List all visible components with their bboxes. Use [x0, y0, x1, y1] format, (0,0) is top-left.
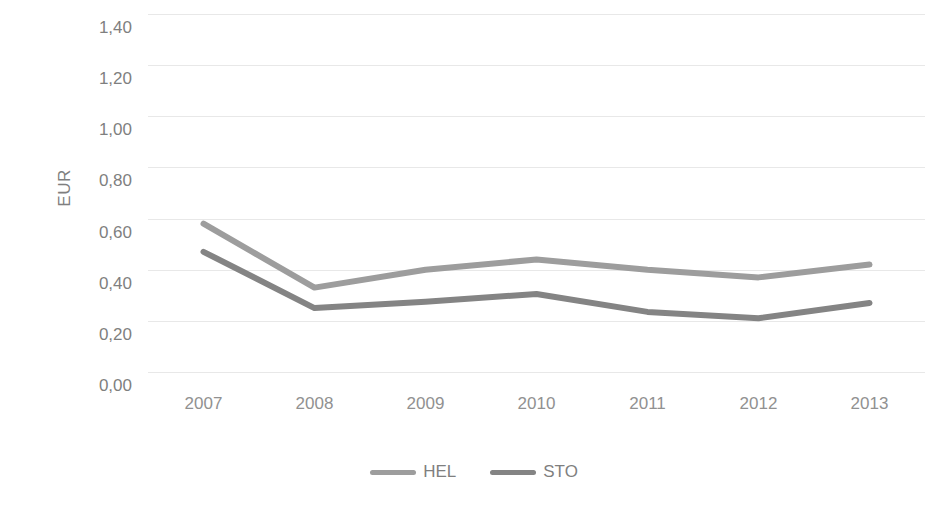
chart-legend: HELSTO — [0, 462, 948, 482]
y-axis-tick-label: 0,20 — [62, 325, 132, 345]
legend-label: STO — [543, 462, 578, 482]
x-axis-tick-label: 2007 — [149, 394, 259, 414]
gridline — [148, 372, 925, 373]
y-axis-tick-labels: 0,000,200,400,600,801,001,201,40 — [62, 14, 132, 372]
plot-area — [148, 14, 925, 372]
x-axis-tick-label: 2010 — [482, 394, 592, 414]
x-axis-tick-labels: 2007200820092010201120122013 — [148, 394, 925, 422]
y-axis-tick-label: 0,40 — [62, 274, 132, 294]
y-axis-tick-label: 0,00 — [62, 376, 132, 396]
y-axis-tick-label: 1,40 — [62, 18, 132, 38]
legend-label: HEL — [423, 462, 456, 482]
legend-entry-hel[interactable]: HEL — [370, 462, 456, 482]
y-axis-tick-label: 0,80 — [62, 171, 132, 191]
x-axis-tick-label: 2011 — [593, 394, 703, 414]
y-axis-tick-label: 1,00 — [62, 120, 132, 140]
x-axis-tick-label: 2012 — [704, 394, 814, 414]
line-chart: EUR 0,000,200,400,600,801,001,201,40 200… — [0, 0, 948, 508]
x-axis-tick-label: 2013 — [815, 394, 925, 414]
legend-line-icon — [490, 470, 536, 475]
legend-entry-sto[interactable]: STO — [490, 462, 578, 482]
y-axis-tick-label: 1,20 — [62, 69, 132, 89]
series-line-hel — [204, 224, 870, 288]
y-axis-tick-label: 0,60 — [62, 223, 132, 243]
x-axis-tick-label: 2008 — [260, 394, 370, 414]
x-axis-tick-label: 2009 — [371, 394, 481, 414]
legend-line-icon — [370, 470, 416, 475]
series-lines — [148, 14, 925, 372]
